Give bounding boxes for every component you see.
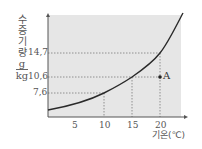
y-tick-14-7: 14,7 <box>28 47 48 57</box>
ylabel-char: 수 <box>14 14 30 25</box>
y-tick-10-6: 10,6 <box>28 71 48 81</box>
ylabel-char: 증 <box>14 25 30 36</box>
x-tick-10: 10 <box>99 120 110 130</box>
x-axis-label: 기온(℃) <box>152 128 185 141</box>
ylabel-unit-g: g <box>14 58 30 69</box>
point-a-marker <box>158 75 162 79</box>
y-tick-7-6: 7,6 <box>33 87 47 97</box>
ylabel-char: 기 <box>14 36 30 47</box>
plot-area <box>48 15 181 117</box>
x-axis-arrow-icon <box>184 115 188 119</box>
x-tick-15: 15 <box>127 120 138 130</box>
x-tick-5: 5 <box>72 120 78 130</box>
point-a-label: A <box>163 70 170 81</box>
